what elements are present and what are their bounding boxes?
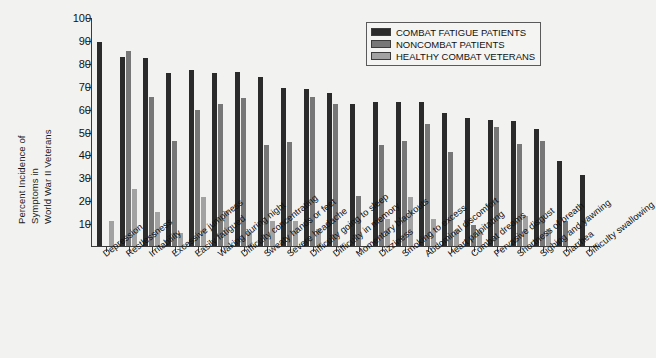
y-tick-label: 100 [73, 12, 91, 24]
y-tick-label: 20 [79, 195, 91, 207]
bar-0 [120, 57, 125, 246]
legend-label: NONCOMBAT PATIENTS [396, 39, 505, 50]
legend-swatch-icon [371, 40, 391, 48]
bar-1 [195, 110, 200, 246]
bar-group [117, 18, 140, 246]
y-axis-title: Percent Incidence of Symptoms in World W… [2, 28, 58, 228]
legend-item: NONCOMBAT PATIENTS [371, 38, 535, 50]
y-tick-label: 70 [79, 81, 91, 93]
y-tick-label: 50 [79, 127, 91, 139]
y-axis-title-line-2: Symptoms in [29, 168, 40, 224]
y-tick-label: 80 [79, 58, 91, 70]
bar-0 [143, 58, 148, 246]
y-tick-label: 90 [79, 35, 91, 47]
legend-item: HEALTHY COMBAT VETERANS [371, 50, 535, 62]
legend-swatch-icon [371, 28, 391, 36]
bar-0 [419, 102, 424, 246]
y-tick-label: 40 [79, 149, 91, 161]
bar-0 [97, 42, 102, 246]
legend-label: HEALTHY COMBAT VETERANS [396, 51, 535, 62]
y-tick-label: 60 [79, 104, 91, 116]
bar-group [140, 18, 163, 246]
bar-0 [189, 70, 194, 246]
y-tick-label: 10 [79, 218, 91, 230]
chart-legend: COMBAT FATIGUE PATIENTS NONCOMBAT PATIEN… [366, 22, 541, 66]
legend-swatch-icon [371, 52, 391, 60]
bar-group [94, 18, 117, 246]
y-tick-label: 30 [79, 172, 91, 184]
legend-item: COMBAT FATIGUE PATIENTS [371, 26, 535, 38]
x-axis-labels: DepressionRestlessnessIrritabilityExcess… [91, 249, 600, 357]
bar-1 [149, 97, 154, 246]
bar-1 [126, 51, 131, 246]
bar-group [186, 18, 209, 246]
y-axis-title-line-3: World War II Veterans [42, 130, 53, 225]
legend-label: COMBAT FATIGUE PATIENTS [396, 27, 526, 38]
bar-group [163, 18, 186, 246]
y-axis-title-line-1: Percent Incidence of [16, 135, 27, 224]
